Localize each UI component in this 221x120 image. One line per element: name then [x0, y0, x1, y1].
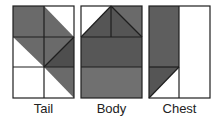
chest-label: Chest [149, 101, 210, 117]
body-bottom-band [81, 67, 142, 98]
tail-block [13, 6, 74, 98]
chest-left-rectangle [149, 6, 179, 67]
body-middle-band [81, 37, 142, 67]
tail-label: Tail [13, 101, 74, 117]
tail-r1-left-square [13, 6, 44, 37]
body-label: Body [81, 101, 142, 117]
chest-block [149, 6, 210, 98]
body-block [81, 6, 142, 98]
